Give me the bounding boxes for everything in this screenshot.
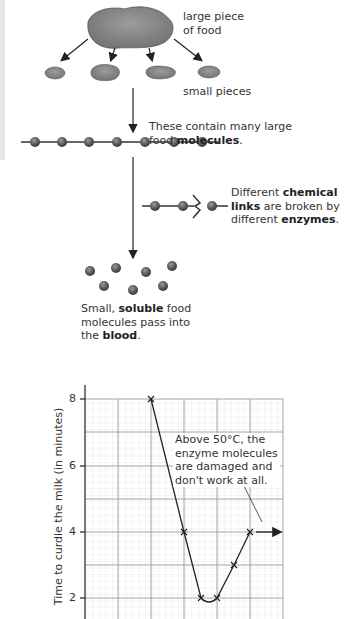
enzyme-breaking-link-icon xyxy=(142,195,228,218)
chart-annotation: Above 50°C, the enzyme molecules are dam… xyxy=(173,433,280,487)
y-axis-label: Time to curdle the milk (in minutes) xyxy=(52,397,65,617)
small-pieces-label: small pieces xyxy=(183,85,251,99)
y-tick-6: 6 xyxy=(62,459,76,472)
chemical-links-label: Different chemical links are broken by d… xyxy=(231,186,340,227)
y-tick-2: 2 xyxy=(62,591,76,604)
large-food-piece-icon xyxy=(88,7,173,48)
soluble-molecules-icon xyxy=(85,261,177,295)
y-tick-4: 4 xyxy=(62,525,76,538)
large-piece-label: large piece of food xyxy=(183,10,244,37)
soluble-molecules-label: Small, soluble food molecules pass into … xyxy=(81,302,191,343)
large-molecules-label: These contain many large food molecules. xyxy=(149,120,292,147)
small-food-pieces-icon xyxy=(45,64,220,80)
y-tick-8: 8 xyxy=(62,392,76,405)
line-chart xyxy=(80,385,283,619)
